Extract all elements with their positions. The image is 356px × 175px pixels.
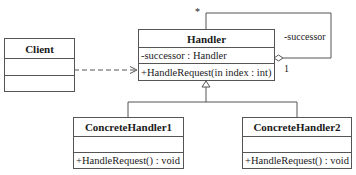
operation-handle-request: +HandleRequest() : void: [74, 153, 183, 168]
dependency-arrow: [74, 67, 137, 74]
attributes-compartment: [243, 137, 351, 153]
attributes-compartment: [5, 59, 74, 76]
class-concrete-handler-2[interactable]: ConcreteHandler2 +HandleRequest() : void: [242, 117, 352, 169]
aggregation-diamond-icon: [274, 55, 283, 61]
class-name: Client: [5, 39, 74, 59]
inheritance-triangle-icon: [202, 81, 210, 87]
class-name: ConcreteHandler1: [74, 118, 183, 137]
role-successor-label: -successor: [284, 31, 326, 42]
operation-handle-request: +HandleRequest(in index : int): [139, 64, 274, 80]
attribute-successor: -successor : Handler: [139, 48, 274, 64]
multiplicity-one-label: 1: [284, 63, 289, 74]
class-handler[interactable]: Handler -successor : Handler +HandleRequ…: [138, 29, 275, 81]
operations-compartment: [5, 76, 74, 91]
class-concrete-handler-1[interactable]: ConcreteHandler1 +HandleRequest() : void: [73, 117, 184, 169]
class-name: Handler: [139, 30, 274, 48]
attributes-compartment: [74, 137, 183, 153]
class-client[interactable]: Client: [4, 38, 75, 92]
multiplicity-many-label: *: [195, 6, 200, 17]
operation-handle-request: +HandleRequest() : void: [243, 153, 351, 168]
generalization-connector: [128, 81, 297, 117]
class-name: ConcreteHandler2: [243, 118, 351, 137]
